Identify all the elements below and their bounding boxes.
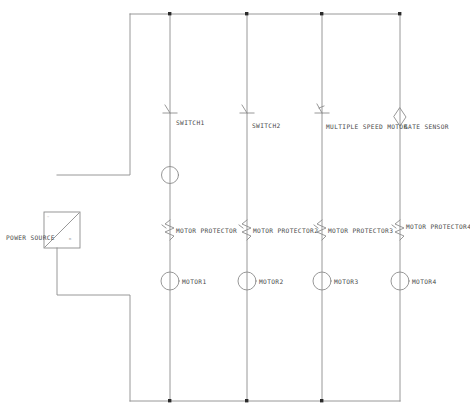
motor-2-label: MOTOR2 xyxy=(259,279,283,285)
motor-protector-2-label: MOTOR PROTECTOR2 xyxy=(253,228,318,234)
junction-dot-top-1 xyxy=(168,12,171,15)
motor-protector-2-symbol xyxy=(239,220,251,240)
motor-1-label: MOTOR1 xyxy=(182,279,206,285)
junction-dot-top-3 xyxy=(320,12,323,15)
motor-4-label: MOTOR4 xyxy=(412,279,436,285)
junction-dot-top-4 xyxy=(398,12,401,15)
left-feed-wire xyxy=(57,248,130,401)
gate-sensor-label: GATE SENSOR xyxy=(404,124,449,130)
power-source-corner-mark-top: ~ xyxy=(47,216,49,220)
junction-dot-bottom-2 xyxy=(245,399,248,402)
power-source-label: POWER SOURCE xyxy=(6,235,55,241)
power-source-diagonal xyxy=(45,213,79,247)
multiple-speed-motor-label: MULTIPLE SPEED MOTOR xyxy=(326,124,408,130)
motor-protector-3-label: MOTOR PROTECTOR3 xyxy=(328,228,393,234)
motor-3-label: MOTOR3 xyxy=(334,279,358,285)
motor-protector-1-symbol xyxy=(162,220,174,240)
junction-dot-bottom-3 xyxy=(320,399,323,402)
switch-1-label: SWITCH1 xyxy=(176,120,205,126)
power-source-corner-mark-bottom: m xyxy=(69,238,71,242)
circuit-schematic-svg xyxy=(0,0,470,414)
left-return-wire xyxy=(57,14,130,175)
junction-dot-bottom-1 xyxy=(168,399,171,402)
junction-dot-top-2 xyxy=(245,12,248,15)
junction-dots xyxy=(168,12,401,402)
motor-protector-1-label: MOTOR PROTECTOR xyxy=(176,228,237,234)
motor-protector-4-label: MOTOR PROTECTOR4 xyxy=(406,224,470,230)
motor-protector-4-symbol xyxy=(392,220,404,240)
circuit-diagram-canvas: POWER SOURCE ~ m SWITCH1 MOTOR PROTECTOR… xyxy=(0,0,470,414)
switch-2-label: SWITCH2 xyxy=(252,123,281,129)
